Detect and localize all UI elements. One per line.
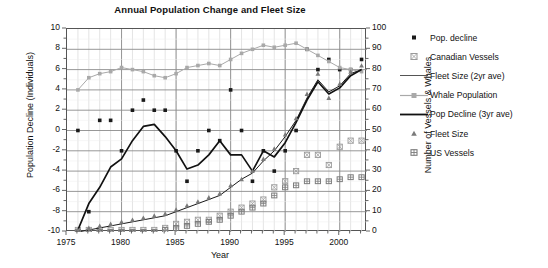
y-tick-label-right: 80 [372, 63, 398, 73]
data-point-square-filled [316, 68, 320, 72]
y-tick-label-left: 10 [34, 22, 60, 32]
y-tick-label-right: 60 [372, 103, 398, 113]
data-point-square-filled [207, 129, 211, 133]
data-point-square-filled [152, 108, 156, 112]
data-point-square-filled [240, 52, 244, 56]
data-point-square-filled [109, 119, 113, 123]
y-tick-label-right: 50 [372, 124, 398, 134]
legend-item[interactable]: Whale Population [398, 86, 548, 105]
y-tick-label-right: 90 [372, 42, 398, 52]
legend-marker-line-thick-icon [398, 105, 430, 124]
y-tick-label-left: 6 [34, 63, 60, 73]
legend-label: Whale Population [430, 90, 497, 100]
x-tick-label: 1995 [264, 237, 304, 247]
legend-marker-square-grid-icon [398, 143, 430, 162]
data-point-square-filled [251, 179, 255, 183]
legend-glyph [398, 28, 430, 47]
legend-item[interactable]: US Vessels [398, 143, 548, 162]
legend-glyph [398, 124, 430, 143]
y-tick-label-right: 70 [372, 83, 398, 93]
y-tick-label-left: -10 [34, 225, 60, 235]
data-point-triangle [305, 92, 310, 96]
legend-glyph [398, 86, 430, 105]
data-point-triangle [316, 71, 321, 75]
data-point-square-filled [196, 64, 200, 68]
data-point-triangle [97, 224, 102, 228]
legend-item[interactable]: Pop Decline (3yr ave) [398, 105, 548, 124]
y-tick-label-left: 8 [34, 42, 60, 52]
legend-label: Fleet Size (2yr ave) [430, 71, 505, 81]
y-tick-label-right: 10 [372, 205, 398, 215]
data-point-square-filled [251, 48, 255, 52]
y-tick-label-left: 4 [34, 83, 60, 93]
y-tick-label-left: -4 [34, 164, 60, 174]
plot-area [66, 28, 366, 231]
y-tick-label-right: 20 [372, 184, 398, 194]
y-tick-label-right: 40 [372, 144, 398, 154]
data-point-square-filled [294, 129, 298, 133]
data-point-square-filled [142, 70, 146, 74]
y-tick-label-right: 100 [372, 22, 398, 32]
data-point-square-filled [305, 48, 309, 52]
data-point-triangle [108, 221, 113, 225]
legend-marker-triangle-icon [398, 124, 430, 143]
data-point-square-filled [294, 41, 298, 45]
data-point-triangle [174, 207, 179, 211]
legend-item[interactable]: Fleet Size (2yr ave) [398, 66, 548, 85]
legend-marker-square-filled-icon [398, 28, 430, 47]
y-tick-label-right: 30 [372, 164, 398, 174]
legend-item[interactable]: Fleet Size [398, 124, 548, 143]
data-point-square-filled [98, 72, 102, 76]
legend-glyph [398, 143, 430, 162]
y-tick-label-left: 2 [34, 103, 60, 113]
data-point-square-filled [87, 76, 91, 80]
legend-item[interactable]: Canadian Vessels [398, 47, 548, 66]
data-point-square-filled [240, 129, 244, 133]
x-tick-label: 1985 [155, 237, 195, 247]
data-point-square-filled [87, 210, 91, 214]
data-point-square-filled [229, 88, 233, 92]
legend-label: Pop. decline [430, 33, 477, 43]
y-tick-label-left: 0 [34, 124, 60, 134]
legend-item[interactable]: Pop. decline [398, 28, 548, 47]
legend-label: Fleet Size [430, 129, 468, 139]
y-tick-label-left: -6 [34, 184, 60, 194]
legend-glyph [398, 47, 430, 66]
data-point-square-filled [120, 149, 124, 153]
data-point-square-filled [262, 43, 266, 47]
legend-label: US Vessels [430, 148, 474, 158]
data-point-square-filled [283, 149, 287, 153]
chart-title: Annual Population Change and Fleet Size [0, 4, 420, 15]
data-point-square-filled [218, 64, 222, 68]
data-point-square-filled [131, 108, 135, 112]
data-point-square-filled [360, 58, 364, 62]
data-point-square-filled [163, 76, 167, 80]
data-point-triangle [326, 96, 331, 100]
data-point-triangle [228, 183, 233, 187]
x-tick-label: 2000 [319, 237, 359, 247]
data-point-square-filled [338, 66, 342, 70]
y-tick-label-left: -8 [34, 205, 60, 215]
data-point-square-filled [207, 62, 211, 66]
data-point-square-filled [152, 74, 156, 78]
data-point-square-filled [131, 68, 135, 72]
legend-marker-square-crossed-icon [398, 47, 430, 66]
chart-legend: Pop. declineCanadian VesselsFleet Size (… [398, 28, 548, 162]
plot-svg [67, 29, 367, 232]
legend-marker-line-thin-icon [398, 66, 430, 85]
data-point-square-filled [174, 72, 178, 76]
data-point-square-filled [142, 98, 146, 102]
data-point-square-filled [229, 58, 233, 62]
data-point-square-filled [272, 45, 276, 49]
data-point-triangle [239, 177, 244, 181]
legend-label: Pop Decline (3yr ave) [430, 109, 513, 119]
data-point-square-filled [98, 119, 102, 123]
data-point-triangle [141, 215, 146, 219]
legend-glyph [398, 105, 430, 124]
legend-label: Canadian Vessels [430, 52, 499, 62]
data-point-triangle [206, 195, 211, 199]
x-tick-label: 1990 [210, 237, 250, 247]
data-point-triangle [130, 217, 135, 221]
data-point-triangle [152, 213, 157, 217]
data-point-square-filled [76, 88, 80, 92]
